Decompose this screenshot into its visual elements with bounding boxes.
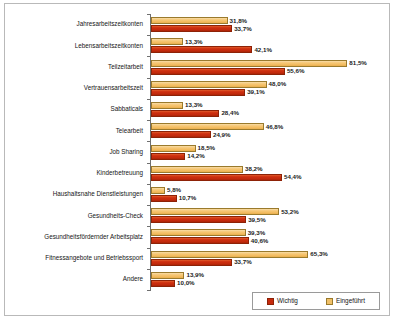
- bar-value-label: 14,2%: [187, 153, 205, 159]
- category-label: Jahresarbeitszeitkonten: [5, 14, 147, 35]
- bar-value-label: 55,6%: [287, 68, 305, 74]
- bar-row: 46,8%: [151, 123, 375, 130]
- bar-row: 33,7%: [151, 259, 375, 266]
- bar-value-label: 31,8%: [230, 18, 248, 24]
- bar-group: 39,3%40,6%: [151, 226, 375, 247]
- bar-group: 18,5%14,2%: [151, 141, 375, 162]
- legend-label: Eingeführt: [336, 298, 365, 304]
- bar-eingefuehrt: [151, 17, 228, 24]
- bar-row: 13,3%: [151, 102, 375, 109]
- bar-value-label: 81,5%: [349, 60, 367, 66]
- bar-group: 65,3%33,7%: [151, 248, 375, 269]
- bar-eingefuehrt: [151, 123, 264, 130]
- category-label: Fitnessangebote und Betriebssport: [5, 248, 147, 269]
- category-label: Telearbeit: [5, 120, 147, 141]
- bar-value-label: 13,3%: [185, 102, 203, 108]
- bar-row: 13,9%: [151, 272, 375, 279]
- bar-group: 38,2%54,4%: [151, 163, 375, 184]
- bar-row: 18,5%: [151, 145, 375, 152]
- bar-wichtig: [151, 280, 175, 287]
- axis-tick: [147, 78, 151, 79]
- axis-tick: [147, 35, 151, 36]
- bar-eingefuehrt: [151, 38, 183, 45]
- bar-row: 39,1%: [151, 89, 375, 96]
- bar-row: 53,2%: [151, 208, 375, 215]
- category-label: Sabbaticals: [5, 99, 147, 120]
- bar-wichtig: [151, 174, 282, 181]
- bar-wichtig: [151, 131, 211, 138]
- bar-row: 5,8%: [151, 187, 375, 194]
- bar-group: 31,8%33,7%: [151, 14, 375, 35]
- bar-eingefuehrt: [151, 166, 243, 173]
- bar-row: 39,5%: [151, 216, 375, 223]
- axis-tick: [147, 290, 151, 291]
- axis-tick: [147, 205, 151, 206]
- bar-eingefuehrt: [151, 102, 183, 109]
- bar-value-label: 24,9%: [213, 132, 231, 138]
- bar-row: 13,3%: [151, 38, 375, 45]
- category-label: Gesundheits-Check: [5, 205, 147, 226]
- bar-wichtig: [151, 153, 185, 160]
- bar-eingefuehrt: [151, 81, 267, 88]
- bar-group: 5,8%10,7%: [151, 184, 375, 205]
- axis-tick: [147, 248, 151, 249]
- bar-eingefuehrt: [151, 187, 165, 194]
- bar-wichtig: [151, 25, 232, 32]
- category-label: Andere: [5, 269, 147, 290]
- axis-tick: [147, 226, 151, 227]
- bar-value-label: 33,7%: [234, 259, 252, 265]
- bar-wichtig: [151, 216, 246, 223]
- bar-value-label: 48,0%: [269, 81, 287, 87]
- bar-group: 81,5%55,6%: [151, 56, 375, 77]
- bar-value-label: 18,5%: [198, 145, 216, 151]
- bar-wichtig: [151, 237, 249, 244]
- bar-value-label: 33,7%: [234, 26, 252, 32]
- axis-tick: [147, 99, 151, 100]
- bar-eingefuehrt: [151, 208, 279, 215]
- bar-row: 10,0%: [151, 280, 375, 287]
- bar-value-label: 54,4%: [284, 174, 302, 180]
- bar-row: 39,3%: [151, 229, 375, 236]
- bar-value-label: 39,5%: [248, 217, 266, 223]
- bar-group: 48,0%39,1%: [151, 78, 375, 99]
- bar-value-label: 5,8%: [167, 187, 181, 193]
- bar-value-label: 46,8%: [266, 124, 284, 130]
- bar-value-label: 40,6%: [251, 238, 269, 244]
- bar-row: 33,7%: [151, 25, 375, 32]
- axis-tick: [147, 56, 151, 57]
- bar-value-label: 28,4%: [221, 110, 239, 116]
- category-axis-labels: JahresarbeitszeitkontenLebensarbeitszeit…: [5, 14, 147, 290]
- chart-frame: JahresarbeitszeitkontenLebensarbeitszeit…: [4, 3, 390, 316]
- category-label: Vertrauensarbeitszeit: [5, 78, 147, 99]
- bar-eingefuehrt: [151, 251, 308, 258]
- category-label: Job Sharing: [5, 141, 147, 162]
- legend-swatch-icon: [267, 298, 274, 305]
- category-label: Teilzeitarbeit: [5, 56, 147, 77]
- bar-row: 14,2%: [151, 153, 375, 160]
- bar-row: 55,6%: [151, 68, 375, 75]
- bar-row: 42,1%: [151, 46, 375, 53]
- bar-row: 40,6%: [151, 237, 375, 244]
- bar-eingefuehrt: [151, 272, 184, 279]
- bar-value-label: 65,3%: [310, 251, 328, 257]
- category-label: Kinderbetreuung: [5, 163, 147, 184]
- bar-wichtig: [151, 110, 219, 117]
- bar-value-label: 13,3%: [185, 39, 203, 45]
- bar-value-label: 53,2%: [281, 209, 299, 215]
- bar-eingefuehrt: [151, 229, 246, 236]
- legend-label: Wichtig: [277, 298, 298, 304]
- axis-tick: [147, 141, 151, 142]
- bar-row: 54,4%: [151, 174, 375, 181]
- bar-group: 13,3%42,1%: [151, 35, 375, 56]
- axis-tick: [147, 120, 151, 121]
- axis-tick: [147, 184, 151, 185]
- bar-group: 53,2%39,5%: [151, 205, 375, 226]
- bar-value-label: 42,1%: [254, 47, 272, 53]
- bar-row: 38,2%: [151, 166, 375, 173]
- legend-item[interactable]: Eingeführt: [326, 298, 365, 305]
- legend-item[interactable]: Wichtig: [267, 298, 298, 305]
- bar-eingefuehrt: [151, 60, 347, 67]
- bar-value-label: 38,2%: [245, 166, 263, 172]
- category-label: Lebensarbeitszeitkonten: [5, 35, 147, 56]
- bar-group: 13,9%10,0%: [151, 269, 375, 290]
